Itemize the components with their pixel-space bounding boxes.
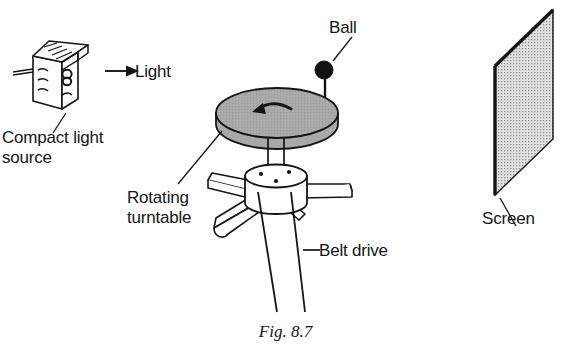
screen-panel-icon xyxy=(495,10,553,226)
label-compact-light-source: Compact light source xyxy=(2,128,103,168)
physics-figure: Compact light source Light Ball Rotating… xyxy=(0,0,571,347)
label-screen: Screen xyxy=(482,209,535,229)
pulley-hub-icon xyxy=(208,165,352,238)
figure-artwork xyxy=(0,0,571,347)
label-ball: Ball xyxy=(329,18,357,38)
lamp-housing-icon xyxy=(13,41,88,133)
figure-caption: Fig. 8.7 xyxy=(0,322,571,342)
label-light: Light xyxy=(135,62,171,82)
label-rotating-turntable: Rotating turntable xyxy=(127,188,191,228)
label-belt-drive: Belt drive xyxy=(319,241,388,261)
arrow-right-icon xyxy=(105,66,139,77)
